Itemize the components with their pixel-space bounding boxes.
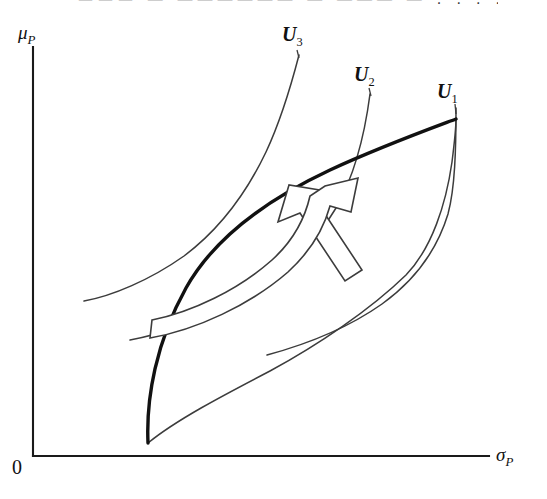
- origin-label: 0: [12, 456, 22, 479]
- curve-label-u2: U2: [354, 63, 375, 90]
- x-axis-label: σP: [496, 444, 513, 470]
- axes-group: [33, 47, 489, 456]
- curve-label-u1: U1: [437, 80, 458, 107]
- feasible-set-lower-boundary: [148, 119, 456, 443]
- efficient-frontier-curve: [148, 119, 456, 443]
- label-leaders: [297, 50, 456, 114]
- curve-label-u3: U3: [282, 23, 303, 50]
- y-axis-label: μP: [18, 22, 35, 48]
- efficient-frontier-diagram: [0, 0, 547, 499]
